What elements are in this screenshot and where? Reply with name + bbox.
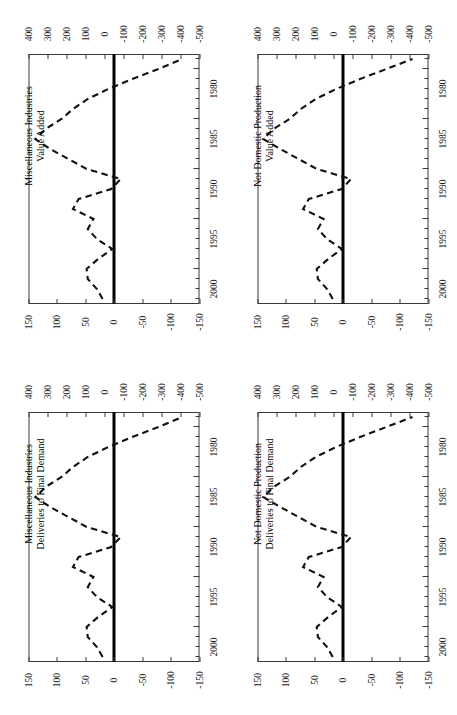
secondary-axis-tick-200 [66,54,67,59]
primary-axis-label-0: 0 [338,677,348,682]
primary-axis-tick--150 [199,657,200,662]
x-axis-tick-1991 [425,516,429,517]
secondary-axis-tick--400 [409,412,410,417]
secondary-axis-tick-400 [257,412,258,417]
primary-axis-tick-150 [257,657,258,662]
secondary-axis-tick--100 [123,54,124,59]
x-axis-label-1990: 1990 [209,537,219,556]
x-axis-tick-1992 [196,506,200,507]
x-axis-tick-1999 [425,436,429,437]
x-axis-tick-1980 [423,268,429,269]
secondary-axis-label--300: -300 [386,383,396,400]
secondary-axis-tick-100 [85,412,86,417]
x-axis-tick-1998 [196,88,200,89]
secondary-axis-label-300: 300 [272,26,282,40]
x-axis-tick-1990 [423,526,429,527]
primary-axis-tick-100 [286,657,287,662]
secondary-axis-label--100: -100 [119,383,129,400]
x-axis-tick-1994 [425,128,429,129]
secondary-axis-label--400: -400 [176,383,186,400]
rotated-plot-area [258,54,429,304]
secondary-axis-label--500: -500 [424,25,434,42]
x-axis-tick-1984 [425,586,429,587]
x-axis-tick-1988 [196,188,200,189]
secondary-axis-tick-100 [314,412,315,417]
x-axis-tick-1984 [196,586,200,587]
x-axis-label-1980: 1980 [438,79,448,98]
secondary-axis-label--400: -400 [405,383,415,400]
primary-axis-label--100: -100 [395,671,405,688]
primary-axis-tick--100 [171,657,172,662]
x-axis-tick-2000 [194,68,200,69]
primary-axis-label--100: -100 [395,313,405,330]
primary-axis-label-50: 50 [310,675,320,685]
x-axis-tick-1980 [194,268,200,269]
figure-sheet: 19801985199019952000150100500-50-100-150… [0,0,457,715]
x-axis-tick-1997 [196,456,200,457]
primary-axis-label--150: -150 [195,671,205,688]
secondary-axis-label--300: -300 [157,383,167,400]
secondary-axis-label--100: -100 [348,25,358,42]
x-axis-tick-2000 [423,426,429,427]
secondary-axis-tick--500 [428,412,429,417]
primary-axis-label--100: -100 [166,313,176,330]
secondary-axis-tick-300 [276,54,277,59]
x-axis-label-1980: 1980 [438,437,448,456]
primary-axis-label-0: 0 [338,319,348,324]
chart-panel-top-right: 19801985199019952000150100500-50-100-150… [229,0,457,357]
x-axis-label-1985: 1985 [438,487,448,506]
x-axis-tick-1983 [425,596,429,597]
x-axis-tick-1999 [196,436,200,437]
x-axis-tick-1985 [194,218,200,219]
secondary-axis-label--300: -300 [157,25,167,42]
primary-axis-tick--50 [371,299,372,304]
secondary-axis-label--400: -400 [176,25,186,42]
secondary-axis-tick--400 [180,412,181,417]
secondary-axis-tick--500 [199,54,200,59]
x-axis-tick-1988 [196,546,200,547]
x-axis-tick-1988 [425,546,429,547]
primary-axis-label-50: 50 [81,675,91,685]
primary-axis-tick--100 [171,299,172,304]
x-axis-tick-1991 [425,158,429,159]
x-axis-tick-1993 [425,138,429,139]
primary-axis-tick--50 [371,657,372,662]
primary-axis-label-50: 50 [81,317,91,327]
primary-axis-tick--50 [142,299,143,304]
x-axis-tick-1984 [425,228,429,229]
x-axis-label-1990: 1990 [438,537,448,556]
secondary-axis-tick-400 [28,54,29,59]
primary-axis-label--150: -150 [424,671,434,688]
primary-axis-label--50: -50 [367,673,377,686]
x-axis-tick-1989 [425,536,429,537]
plot-canvas [29,412,200,662]
x-axis-tick-1982 [425,606,429,607]
primary-axis-tick-50 [85,299,86,304]
x-axis-tick-1996 [196,466,200,467]
x-axis-label-1990: 1990 [438,179,448,198]
x-axis-tick-1997 [425,456,429,457]
x-axis-tick-1986 [196,208,200,209]
secondary-axis-label--500: -500 [424,383,434,400]
primary-axis-tick-150 [28,299,29,304]
x-axis-tick-1978 [425,288,429,289]
secondary-axis-tick--500 [428,54,429,59]
x-axis-tick-1982 [196,248,200,249]
primary-axis-label--50: -50 [367,315,377,328]
secondary-axis-label-200: 200 [62,384,72,398]
x-axis-label-1985: 1985 [209,487,219,506]
secondary-axis-tick-200 [295,54,296,59]
x-axis-tick-1995 [194,118,200,119]
secondary-axis-tick-100 [314,54,315,59]
x-axis-label-1985: 1985 [438,129,448,148]
x-axis-tick-1991 [196,516,200,517]
primary-axis-tick-0 [114,657,115,662]
secondary-axis-label--200: -200 [138,25,148,42]
rotated-plot-area [29,54,200,304]
x-axis-tick-1978 [196,288,200,289]
primary-axis-label-0: 0 [109,677,119,682]
primary-axis-tick-100 [57,299,58,304]
secondary-axis-label-0: 0 [329,389,339,394]
secondary-axis-label--100: -100 [348,383,358,400]
x-axis-tick-1979 [196,278,200,279]
